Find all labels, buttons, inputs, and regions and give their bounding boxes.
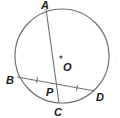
tick-mark-BP — [37, 77, 38, 83]
circle-diagram: A O B P D C — [0, 0, 120, 118]
label-C: C — [54, 106, 63, 118]
label-P: P — [46, 86, 54, 98]
stray-dot — [115, 61, 116, 62]
label-D: D — [96, 91, 104, 103]
label-B: B — [6, 74, 14, 86]
label-O: O — [63, 61, 72, 73]
label-A: A — [40, 0, 49, 11]
tick-mark-PD — [77, 85, 78, 91]
center-dot-O — [59, 55, 62, 58]
